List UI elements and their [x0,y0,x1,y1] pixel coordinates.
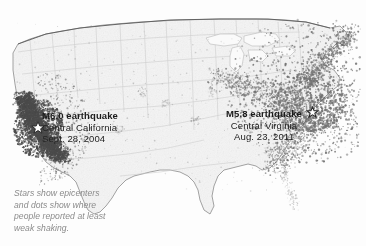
california-quake-magnitude: M6.0 earthquake [42,110,118,122]
map-caption: Stars show epicenters and dots show wher… [14,188,164,234]
virginia-quake-magnitude: M5.8 earthquake [216,108,312,120]
california-earthquake-label: M6.0 earthquake Central California Sept.… [42,110,118,145]
star-icon-virginia-epicenter [306,106,319,119]
shakemap-figure: M6.0 earthquake Central California Sept.… [0,0,366,246]
virginia-quake-date: Aug. 23, 2011 [216,131,312,143]
caption-line-4: weak shaking. [14,223,164,235]
caption-line-2: and dots show where [14,200,164,212]
caption-line-3: people reported at least [14,211,164,223]
virginia-quake-place: Central Virginia [216,120,312,132]
virginia-earthquake-label: M5.8 earthquake Central Virginia Aug. 23… [216,108,312,143]
california-quake-date: Sept. 28, 2004 [42,133,118,145]
caption-line-1: Stars show epicenters [14,188,164,200]
california-quake-place: Central California [42,122,118,134]
